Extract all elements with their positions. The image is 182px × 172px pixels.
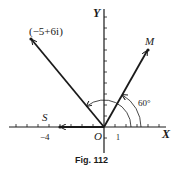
x-axis-label: X	[161, 127, 171, 141]
point-neg5-plus-6i	[29, 37, 32, 40]
figure-caption: Fig. 112	[75, 155, 108, 165]
y-axis	[104, 9, 107, 153]
point-label-s: S	[42, 111, 48, 123]
y-axis-label: Y	[93, 6, 102, 20]
point-label-m: M	[144, 35, 155, 47]
tick-label-neg4: −4	[40, 132, 50, 142]
origin-label: O	[94, 130, 102, 142]
point-s	[58, 125, 61, 128]
vector-m	[104, 51, 147, 127]
angle-label-60: 60°	[138, 98, 151, 108]
point-label-neg5-plus-6i: (−5+6i)	[29, 25, 63, 38]
point-m	[146, 48, 149, 51]
tick-label-1: 1	[116, 133, 120, 142]
complex-plane-diagram: (−5+6i) M S −4 1 O X Y 60° Fig. 112	[0, 0, 182, 172]
